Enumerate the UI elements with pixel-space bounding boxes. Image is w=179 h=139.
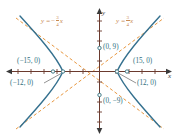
asymptote-negative-equation-label: y =−34x: [41, 15, 63, 27]
leader-line-vertex-left: [44, 74, 61, 84]
point-label-covertex-top: (0, 9): [103, 44, 119, 51]
asymptote-positive-variable: x: [130, 17, 133, 25]
point-marker-focus-left: [51, 70, 54, 73]
point-label-focus-left: (−15, 0): [17, 58, 40, 65]
asymptote-negative-sign: −: [51, 17, 56, 25]
asymptote-positive-lhs: y =: [116, 17, 126, 25]
point-marker-vertex-left: [61, 70, 64, 73]
asymptote-negative-denominator: 4: [56, 22, 60, 27]
point-marker-covertex-top: [98, 46, 101, 49]
point-marker-covertex-bottom: [98, 93, 101, 96]
point-label-vertex-left: (−12, 0): [10, 80, 33, 87]
graph-canvas: [0, 0, 179, 139]
asymptote-negative-fraction: 34: [56, 15, 60, 27]
y-axis-arrow-down: [97, 128, 103, 134]
asymptote-positive-equation-label: y =34x: [116, 15, 133, 27]
point-marker-focus-right: [125, 70, 128, 73]
point-marker-vertex-right: [115, 70, 118, 73]
point-label-vertex-right: (12, 0): [137, 80, 156, 87]
point-label-covertex-bottom: (0, −9): [103, 98, 123, 105]
hyperbola-figure: y =−34x y =34x (−15, 0) (−12, 0) (15, 0)…: [0, 0, 179, 139]
asymptote-negative-variable: x: [60, 17, 63, 25]
leader-line-vertex-right: [119, 74, 136, 84]
x-axis-arrow-left: [6, 69, 12, 75]
asymptote-negative-numerator: 3: [56, 15, 60, 20]
asymptote-negative-lhs: y =: [41, 17, 51, 25]
x-axis-label: x: [168, 73, 171, 80]
y-axis-label: y: [102, 10, 105, 17]
point-label-focus-right: (15, 0): [133, 58, 152, 65]
